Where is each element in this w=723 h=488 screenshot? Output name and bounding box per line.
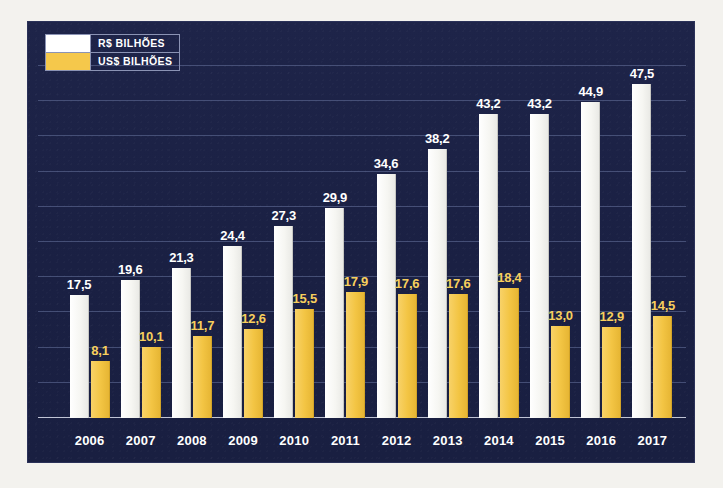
bar-value-label: 38,2: [425, 131, 450, 146]
bar-value-label: 17,6: [446, 276, 471, 291]
bar-usd: 12,9: [602, 327, 621, 418]
bar-value-label: 17,9: [344, 274, 369, 289]
bar-rs: 43,2: [479, 114, 498, 418]
bar-rs: 17,5: [70, 295, 89, 418]
bar-wrapper: 17,9: [346, 292, 365, 418]
bar-usd: 11,7: [193, 336, 212, 418]
bar-wrapper: 43,2: [479, 114, 498, 418]
plot-area: 17,58,119,610,121,311,724,412,627,315,52…: [28, 22, 694, 462]
legend-swatch-usd-icon: [46, 53, 91, 70]
bar-rs: 21,3: [172, 268, 191, 418]
x-axis-label: 2017: [627, 433, 678, 448]
chart-figure: R$ BILHÕES US$ BILHÕES 17,58,119,610,121…: [0, 0, 723, 488]
bar-wrapper: 27,3: [274, 226, 293, 418]
x-axis-label: 2009: [218, 433, 269, 448]
bar-wrapper: 12,9: [602, 327, 621, 418]
bar-wrapper: 14,5: [653, 316, 672, 418]
bar-wrapper: 19,6: [121, 280, 140, 418]
bar-value-label: 12,9: [599, 309, 624, 324]
bar-rs: 43,2: [530, 114, 549, 418]
bar-group: 29,917,9: [320, 66, 371, 418]
x-axis-label: 2013: [422, 433, 473, 448]
bar-group: 47,514,5: [627, 66, 678, 418]
bar-value-label: 13,0: [548, 308, 573, 323]
bar-value-label: 29,9: [323, 190, 348, 205]
bar-wrapper: 17,5: [70, 295, 89, 418]
bar-value-label: 43,2: [476, 96, 501, 111]
bar-value-label: 43,2: [527, 96, 552, 111]
bar-usd: 12,6: [244, 329, 263, 418]
bar-rs: 34,6: [377, 174, 396, 418]
bar-wrapper: 13,0: [551, 326, 570, 418]
x-axis-label: 2012: [371, 433, 422, 448]
bar-usd: 17,6: [449, 294, 468, 418]
bar-rs: 38,2: [428, 149, 447, 418]
bar-wrapper: 17,6: [398, 294, 417, 418]
bar-value-label: 27,3: [271, 208, 296, 223]
bar-usd: 15,5: [295, 309, 314, 418]
bar-wrapper: 38,2: [428, 149, 447, 418]
bar-value-label: 47,5: [630, 66, 655, 81]
bar-value-label: 12,6: [241, 311, 266, 326]
x-axis-label: 2007: [115, 433, 166, 448]
bar-group: 21,311,7: [166, 66, 217, 418]
bar-wrapper: 18,4: [500, 288, 519, 418]
bar-value-label: 11,7: [191, 318, 215, 333]
bar-group: 34,617,6: [371, 66, 422, 418]
legend-label-rs: R$ BILHÕES: [91, 35, 172, 52]
x-axis: 2006200720082009201020112012201320142015…: [28, 422, 694, 456]
bar-rs: 19,6: [121, 280, 140, 418]
bar-wrapper: 29,9: [325, 208, 344, 418]
x-axis-label: 2008: [166, 433, 217, 448]
bar-usd: 13,0: [551, 326, 570, 418]
bar-wrapper: 24,4: [223, 246, 242, 418]
bar-wrapper: 12,6: [244, 329, 263, 418]
bar-wrapper: 11,7: [193, 336, 212, 418]
bar-rs: 47,5: [632, 84, 651, 418]
bar-group: 17,58,1: [64, 66, 115, 418]
bar-usd: 14,5: [653, 316, 672, 418]
x-axis-label: 2011: [320, 433, 371, 448]
chart-panel: R$ BILHÕES US$ BILHÕES 17,58,119,610,121…: [28, 22, 694, 462]
bar-group: 44,912,9: [576, 66, 627, 418]
bar-value-label: 34,6: [374, 156, 399, 171]
bar-group: 38,217,6: [422, 66, 473, 418]
legend-label-usd: US$ BILHÕES: [91, 53, 179, 70]
bar-group: 43,218,4: [473, 66, 524, 418]
chart-legend: R$ BILHÕES US$ BILHÕES: [45, 34, 180, 71]
bar-usd: 17,6: [398, 294, 417, 418]
bar-value-label: 44,9: [578, 84, 603, 99]
bar-rs: 24,4: [223, 246, 242, 418]
legend-swatch-rs-icon: [46, 35, 91, 52]
bar-rs: 27,3: [274, 226, 293, 418]
legend-item-usd: US$ BILHÕES: [46, 52, 179, 70]
bar-group: 19,610,1: [115, 66, 166, 418]
bar-wrapper: 15,5: [295, 309, 314, 418]
x-axis-label: 2016: [576, 433, 627, 448]
bar-usd: 8,1: [91, 361, 110, 418]
bar-value-label: 10,1: [139, 329, 164, 344]
bar-wrapper: 17,6: [449, 294, 468, 418]
x-axis-label: 2014: [473, 433, 524, 448]
bar-value-label: 21,3: [169, 250, 194, 265]
bar-value-label: 24,4: [220, 228, 245, 243]
bar-usd: 17,9: [346, 292, 365, 418]
bar-wrapper: 21,3: [172, 268, 191, 418]
bar-wrapper: 10,1: [142, 347, 161, 418]
bar-value-label: 18,4: [497, 270, 522, 285]
x-axis-label: 2010: [269, 433, 320, 448]
bar-rs: 29,9: [325, 208, 344, 418]
bar-value-label: 14,5: [651, 298, 676, 313]
bar-value-label: 8,1: [91, 343, 108, 358]
bar-usd: 10,1: [142, 347, 161, 418]
bar-usd: 18,4: [500, 288, 519, 418]
bar-wrapper: 43,2: [530, 114, 549, 418]
bar-wrapper: 8,1: [91, 361, 110, 418]
bar-wrapper: 34,6: [377, 174, 396, 418]
bar-group: 24,412,6: [218, 66, 269, 418]
legend-item-rs: R$ BILHÕES: [46, 35, 179, 52]
bar-value-label: 15,5: [292, 291, 317, 306]
bar-wrapper: 47,5: [632, 84, 651, 418]
bar-value-label: 17,5: [67, 277, 92, 292]
bar-wrapper: 44,9: [581, 102, 600, 418]
